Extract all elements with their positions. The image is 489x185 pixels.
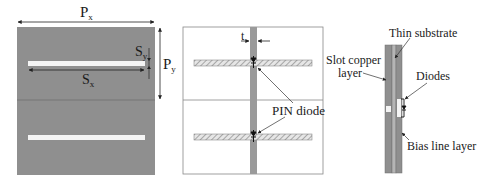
- sy-label-main: S: [135, 44, 143, 59]
- t-label: t: [241, 30, 244, 43]
- slot-copper-label-line2: layer: [338, 67, 362, 80]
- diodes-label: Diodes: [416, 70, 450, 83]
- py-label-sub: y: [171, 64, 176, 74]
- slot-top: [28, 61, 145, 66]
- thin-substrate: [392, 45, 396, 173]
- sy-label-sub: y: [143, 51, 148, 61]
- bias-line: [250, 27, 257, 174]
- sx-label-sub: x: [90, 79, 95, 89]
- sx-label: Sx: [82, 73, 94, 91]
- bias-line-layer-label: Bias line layer: [407, 140, 476, 153]
- slot-gap: [386, 106, 391, 112]
- side-diode-icon: [402, 106, 406, 110]
- px-label-sub: x: [88, 12, 93, 22]
- slot-copper-leader: [363, 73, 386, 80]
- slot-bottom: [28, 135, 145, 140]
- pin-diode-label: PIN diode: [272, 104, 325, 117]
- py-label: Py: [163, 58, 176, 76]
- thin-substrate-label: Thin substrate: [389, 27, 457, 40]
- middle-panel-bias-layer: [183, 27, 323, 174]
- sy-label: Sy: [135, 45, 147, 63]
- sx-label-main: S: [82, 72, 90, 87]
- bias-gap: [397, 99, 401, 117]
- px-label: Px: [80, 6, 93, 24]
- diodes-leader: [405, 83, 427, 99]
